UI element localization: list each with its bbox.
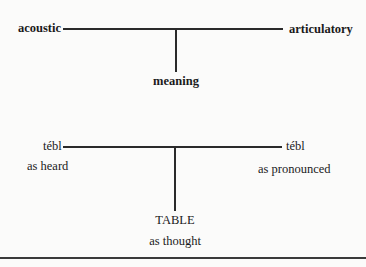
top-vertical-line xyxy=(175,28,177,72)
meaning-label: meaning xyxy=(153,74,199,88)
as-heard-caption: as heard xyxy=(27,159,68,173)
acoustic-label: acoustic xyxy=(18,21,61,35)
tebl-pronounced-label: tébl xyxy=(286,139,305,153)
bottom-horizontal-line xyxy=(63,146,282,148)
as-thought-caption: as thought xyxy=(149,234,201,248)
top-horizontal-line xyxy=(63,28,283,30)
bottom-rule xyxy=(0,257,366,259)
bottom-vertical-line xyxy=(174,146,176,211)
table-label: TABLE xyxy=(155,213,194,227)
articulatory-label: articulatory xyxy=(289,22,353,36)
tebl-heard-label: tébl xyxy=(43,139,62,153)
as-pronounced-caption: as pronounced xyxy=(258,162,331,176)
